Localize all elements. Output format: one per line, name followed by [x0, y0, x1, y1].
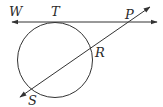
- label-r: R: [94, 45, 105, 60]
- label-w: W: [9, 4, 24, 19]
- geometry-diagram: W T P R S: [0, 0, 163, 107]
- label-s: S: [28, 93, 37, 107]
- label-t: T: [51, 4, 61, 19]
- label-p: P: [124, 7, 134, 22]
- circle: [18, 23, 93, 98]
